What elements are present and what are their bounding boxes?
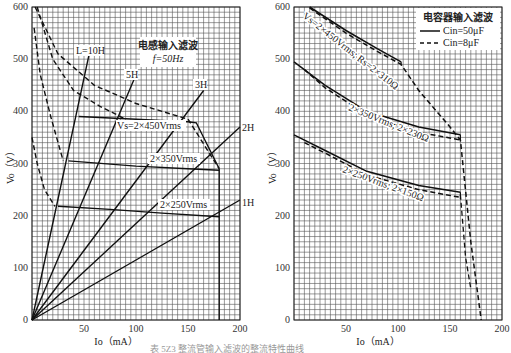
label-10h: L=10H [76,45,105,56]
legend-title: 电容器输入滤波 [423,11,494,23]
x-tick-label: 150 [443,323,458,334]
y-tick-label: 100 [13,262,28,273]
y-tick-label: 500 [13,53,28,64]
label-450v: Vs=2×450Vrms [117,120,181,131]
label-1h: 1H [242,197,254,208]
x-tick-label: 100 [391,323,406,334]
y-tick-label: 500 [275,53,290,64]
grid [294,7,502,320]
x-tick-label: 200 [233,323,248,334]
x-axis-label: Io（mA） [94,336,137,347]
x-tick-label: 200 [495,323,510,334]
x-tick-label: 50 [341,323,351,334]
y-axis-label: Vo（V） [5,146,16,184]
y-tick-label: 100 [275,262,290,273]
inductance-line [32,54,89,320]
y-tick-label: 200 [275,210,290,221]
label-450v-310ohm: Vs=2×450Vrms; Rs=2×310Ω [301,10,401,92]
label-5h: 5H [126,69,138,80]
x-tick-label: 150 [181,323,196,334]
x-tick-label: 50 [79,323,89,334]
critical-inductance-curve [35,7,219,169]
label-250v: 2×250Vrms [160,199,207,210]
label-350v: 2×350Vrms [150,153,197,164]
label-2h: 2H [242,122,254,133]
y-tick-label: 400 [13,105,28,116]
chart-canvas: 010020030040050060050100150200Io（mA）Vo（V… [0,0,511,353]
critical-inductance-curve [34,28,63,161]
y-tick-label: 600 [275,1,290,12]
capacitor-input-chart: 010020030040050060050100150200Io（mA）Vo（V… [267,1,510,347]
label-3h: 3H [195,79,207,90]
x-tick-label: 100 [129,323,144,334]
figure-caption: 表 5Z3 整流管输入滤波的整流特性曲线 [150,342,410,353]
legend-dashed-label: Cin=8μF [443,37,479,48]
chart-title: 电感输入滤波 [138,39,199,51]
legend-solid-label: Cin=50μF [443,25,484,36]
y-tick-label: 600 [13,1,28,12]
y-tick-label: 200 [13,210,28,221]
inductor-input-chart: 010020030040050060050100150200Io（mA）Vo（V… [5,1,254,347]
y-axis-label: Vo（V） [267,146,278,184]
grid [32,7,240,320]
y-tick-label: 0 [23,314,28,325]
frequency-label: f=50Hz [153,53,184,64]
critical-inductance-curve [37,7,125,119]
y-tick-label: 0 [285,314,290,325]
legend: 电容器输入滤波Cin=50μFCin=8μF [416,8,500,50]
y-tick-label: 400 [275,105,290,116]
